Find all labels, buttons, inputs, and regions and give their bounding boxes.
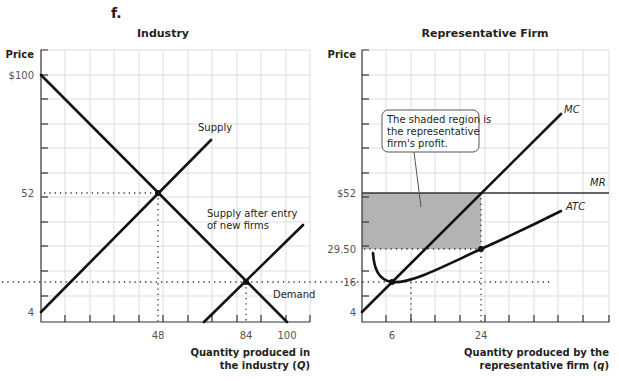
industry-xtick-48: 48 (152, 330, 165, 341)
profit-shaded-region (362, 193, 481, 249)
industry-xtick-84: 84 (240, 330, 253, 341)
equilibrium-initial-dot (155, 190, 161, 196)
mc-label: MC (564, 104, 580, 115)
figure-canvas: f. Industry Representative Firm (0, 0, 619, 381)
panel-label: f. (111, 5, 122, 21)
firm-min-atc-dot (389, 279, 395, 285)
demand-label: Demand (273, 289, 315, 300)
industry-ytick-52: 52 (21, 188, 34, 199)
industry-grid (41, 50, 310, 322)
firm-xlabel-2: representative firm (q) (479, 360, 609, 371)
industry-ytick-100: $100 (9, 70, 34, 81)
firm-ytick-2950: 29.50 (327, 244, 356, 255)
industry-ylabel: Price (6, 49, 35, 60)
callout-line-2: the representative (387, 126, 480, 137)
firm-ylabel: Price (328, 49, 357, 60)
callout-line-3: firm's profit. (387, 138, 448, 149)
mr-label: MR (590, 177, 606, 188)
firm-xtick-24: 24 (475, 330, 488, 341)
supply-after-label-2: of new firms (207, 220, 269, 231)
industry-axis-ticks (41, 75, 310, 322)
callout-line-1: The shaded region is (386, 114, 491, 125)
firm-xtick-6: 6 (389, 330, 395, 341)
demand-curve (41, 75, 287, 322)
firm-ytick-52: $52 (337, 188, 356, 199)
firm-atc-q24-dot (478, 246, 484, 252)
firm-chart: MC MR ATC The shaded region is the repre… (327, 49, 609, 371)
industry-axes (41, 50, 310, 322)
firm-ytick-16: 16 (343, 277, 356, 288)
supply-after-label-1: Supply after entry (207, 208, 298, 219)
industry-xlabel-1: Quantity produced in (190, 347, 310, 358)
supply-curve (41, 140, 211, 312)
supply-label: Supply (198, 122, 232, 133)
industry-xtick-100: 100 (277, 330, 296, 341)
firm-title: Representative Firm (422, 27, 549, 40)
industry-xlabel-2: the industry (Q) (220, 360, 310, 371)
industry-ytick-4: 4 (28, 307, 34, 318)
firm-ytick-4: 4 (350, 307, 356, 318)
atc-label: ATC (565, 201, 585, 212)
firm-xlabel-1: Quantity produced by the (464, 347, 609, 358)
supply-after-entry-curve (204, 225, 303, 322)
industry-title: Industry (137, 27, 189, 40)
equilibrium-after-entry-dot (243, 279, 249, 285)
